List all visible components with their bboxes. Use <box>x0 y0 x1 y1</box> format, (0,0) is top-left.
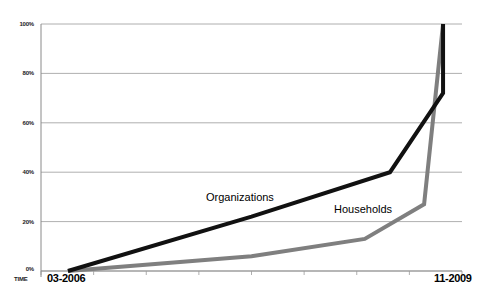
x-axis-ticks <box>41 271 462 275</box>
series-label-households: Households <box>334 203 392 215</box>
plot-area <box>0 0 494 295</box>
x-axis-title: TIME <box>14 276 28 282</box>
y-tick-label-80: 80% <box>4 70 34 76</box>
line-chart: 100% 80% 60% 40% 20% 0% TIME 03-2006 11-… <box>0 0 494 295</box>
gridlines <box>41 24 462 271</box>
y-tick-label-40: 40% <box>4 169 34 175</box>
y-tick-label-0: 0% <box>4 266 34 272</box>
series-line-organizations <box>68 24 443 271</box>
x-tick-label-start: 03-2006 <box>47 272 85 284</box>
series-label-organizations: Organizations <box>206 191 274 203</box>
y-tick-label-20: 20% <box>4 219 34 225</box>
series-lines <box>68 24 443 271</box>
x-tick-label-end: 11-2009 <box>434 272 472 284</box>
y-tick-label-60: 60% <box>4 120 34 126</box>
y-tick-label-100: 100% <box>4 21 34 27</box>
series-line-households <box>68 24 443 271</box>
